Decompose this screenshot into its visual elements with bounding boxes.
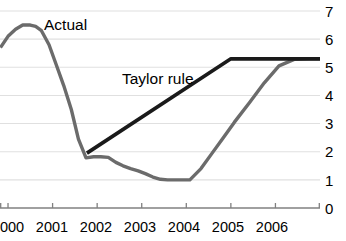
x-axis-tick-label-2000: 2000 bbox=[0, 220, 30, 235]
series-label-actual: Actual bbox=[44, 17, 87, 33]
chart-container: 7 6 5 4 3 2 1 0 2000 2001 2002 2003 2004… bbox=[0, 0, 346, 241]
x-axis-tick-label-2003: 2003 bbox=[118, 220, 162, 235]
gridlines bbox=[0, 11, 320, 180]
axis-ticks bbox=[1, 203, 320, 208]
x-axis-tick-label-2001: 2001 bbox=[30, 220, 74, 235]
y-axis-tick-label-0: 0 bbox=[325, 201, 346, 216]
y-axis-tick-label-3: 3 bbox=[325, 116, 346, 131]
data-series bbox=[0, 25, 320, 180]
y-axis-tick-label-1: 1 bbox=[325, 173, 346, 188]
y-axis-tick-label-5: 5 bbox=[325, 60, 346, 75]
y-axis-tick-label-2: 2 bbox=[325, 144, 346, 159]
series-label-taylor-rule: Taylor rule bbox=[122, 71, 194, 87]
y-axis-tick-label-7: 7 bbox=[325, 4, 346, 19]
x-axis-tick-label-2004: 2004 bbox=[162, 220, 206, 235]
series-line-actual bbox=[0, 25, 320, 180]
x-axis-tick-label-2002: 2002 bbox=[74, 220, 118, 235]
x-axis-tick-label-2006: 2006 bbox=[250, 220, 294, 235]
y-axis-tick-label-4: 4 bbox=[325, 88, 346, 103]
x-axis-tick-label-2005: 2005 bbox=[206, 220, 250, 235]
chart-plot-area bbox=[0, 0, 346, 241]
y-axis-tick-label-6: 6 bbox=[325, 32, 346, 47]
